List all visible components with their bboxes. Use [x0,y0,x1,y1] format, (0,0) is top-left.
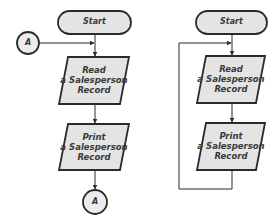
left-read-line1: Read [59,65,129,75]
left-print-line1: Print [59,132,129,142]
right-read-line3: Record [196,84,266,94]
right-flowchart [179,11,267,189]
right-read-line1: Read [196,64,266,74]
left-read-line2: a Salesperson [59,75,129,85]
flowchart-canvas [0,0,279,224]
right-print-line2: a Salesperson [196,141,266,151]
left-start-label: Start [58,17,131,27]
right-read-line2: a Salesperson [196,74,266,84]
right-read-label: Read a Salesperson Record [196,64,266,94]
left-print-line3: Record [59,152,129,162]
left-exit-connector-label: A [83,197,107,207]
left-read-line3: Record [59,85,129,95]
right-start-label: Start [196,17,267,27]
right-print-line1: Print [196,131,266,141]
right-print-line3: Record [196,151,266,161]
left-print-line2: a Salesperson [59,142,129,152]
left-print-label: Print a Salesperson Record [59,132,129,162]
left-entry-connector-label: A [17,38,39,48]
right-print-label: Print a Salesperson Record [196,131,266,161]
left-read-label: Read a Salesperson Record [59,65,129,95]
